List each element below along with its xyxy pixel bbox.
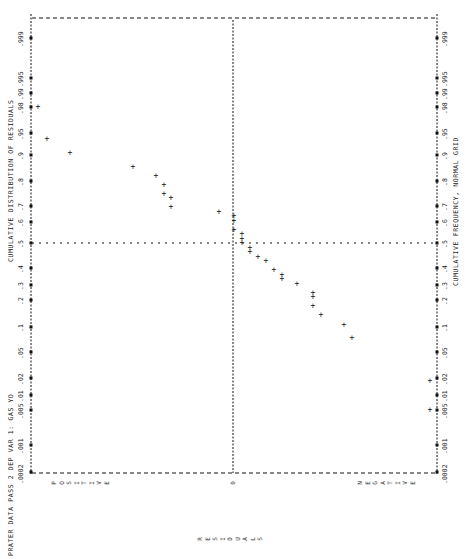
tick-label: .005 [17,404,25,420]
axis-letter: V [402,481,408,485]
data-point: + [66,149,74,157]
tick-label: .7 [441,203,449,211]
tick-label: .98 [441,102,449,114]
axis-letter: L [249,537,255,541]
data-point: + [160,181,168,189]
tick-label: .001 [17,439,25,455]
data-point: + [309,302,317,310]
data-point: + [426,406,434,414]
data-point: + [34,103,42,111]
axis-letter: A [379,481,385,485]
data-point: + [254,253,262,261]
data-point: + [230,226,238,234]
tick-label: .8 [441,178,449,186]
tick-label: .4 [441,265,449,273]
tick-label: .02 [17,373,25,385]
axis-letter: I [394,481,400,485]
data-point: + [278,275,286,283]
data-point: + [152,172,160,180]
tick-label: .8 [17,178,25,186]
axis-letter: O [58,481,64,485]
axis-letter: U [234,537,240,541]
tick-label: .6 [17,219,25,227]
data-point: + [293,280,301,288]
axis-letter: D [227,537,233,541]
plot-frame [0,0,468,559]
right-axis-title: CUMULATIVE FREQUENCY, NORMAL GRID [452,137,460,286]
data-point: + [129,163,137,171]
axis-letter: I [219,537,225,541]
tick-label: .9 [441,152,449,160]
tick-label: .01 [17,390,25,402]
tick-label: .99 [441,88,449,100]
axis-letter: S [257,537,263,541]
axis-letter: N [357,481,363,485]
tick-label: .995 [17,72,25,88]
tick-label: .001 [441,439,449,455]
tick-label: .005 [441,404,449,420]
axis-letter: I [88,481,94,485]
data-point: + [238,239,246,247]
tick-label: .3 [17,282,25,290]
chart-title: PRATER DATA PASS 2 DEP VAR 1: GAS YD [7,394,15,556]
axis-letter: R [197,537,203,541]
axis-letter: E [409,481,415,485]
tick-label: .05 [441,347,449,359]
axis-letter: E [364,481,370,485]
axis-letter: T [81,481,87,485]
tick-label: .1 [17,324,25,332]
tick-label: .6 [441,219,449,227]
data-point: + [309,293,317,301]
tick-label: .999 [441,32,449,48]
tick-label: .995 [441,72,449,88]
axis-letter: E [103,481,109,485]
data-point: + [340,321,348,329]
tick-label: .05 [17,347,25,359]
tick-label: .9 [17,152,25,160]
tick-label: .98 [17,102,25,114]
axis-letter: G [372,481,378,485]
tick-label: .2 [17,297,25,305]
data-point: + [426,377,434,385]
data-point: + [167,194,175,202]
data-point: + [317,311,325,319]
data-point: + [167,203,175,211]
axis-letter: E [204,537,210,541]
tick-label: .7 [17,203,25,211]
tick-label: .02 [441,373,449,385]
tick-label: .95 [441,128,449,140]
left-axis-title: CUMULATIVE DISTRIBUTION OF RESIDUALS [7,100,15,262]
tick-label: .0002 [441,464,449,484]
axis-letter: A [242,537,248,541]
data-point: + [43,135,51,143]
axis-letter: S [66,481,72,485]
tick-label: .99 [17,88,25,100]
tick-label: .1 [441,324,449,332]
data-point: + [246,248,254,256]
axis-letter: I [73,481,79,485]
axis-letter: V [96,481,102,485]
data-point: + [215,208,223,216]
tick-label: .5 [441,240,449,248]
axis-letter: S [212,537,218,541]
axis-letter: P [51,481,57,485]
tick-label: .4 [17,265,25,273]
tick-label: .3 [441,282,449,290]
data-point: + [270,266,278,274]
tick-label: .0002 [17,464,25,484]
data-point: + [262,257,270,265]
data-point: + [230,217,238,225]
axis-letter: T [387,481,393,485]
data-point: + [348,334,356,342]
zero-label: 0 [230,481,236,485]
tick-label: .999 [17,32,25,48]
tick-label: .01 [441,390,449,402]
tick-label: .2 [441,297,449,305]
tick-label: .95 [17,128,25,140]
tick-label: .5 [17,240,25,248]
